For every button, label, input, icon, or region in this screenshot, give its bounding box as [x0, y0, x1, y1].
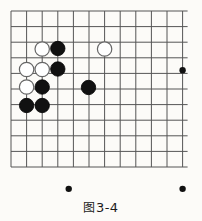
white-stone[interactable]	[35, 62, 49, 76]
black-stone[interactable]	[51, 41, 65, 55]
black-stone[interactable]	[35, 80, 49, 94]
caption-label: 图	[83, 201, 96, 215]
caption-number: 3-4	[96, 200, 119, 215]
white-stone[interactable]	[19, 80, 33, 94]
black-stone[interactable]	[35, 98, 49, 112]
black-stone[interactable]	[51, 62, 65, 76]
go-diagram-figure: 图3-4	[0, 0, 202, 221]
figure-caption: 图3-4	[0, 198, 202, 215]
stone-layer	[19, 41, 111, 112]
black-stone[interactable]	[19, 98, 33, 112]
star-bottom-left-icon	[66, 186, 72, 192]
white-stone[interactable]	[35, 42, 49, 56]
star-right-icon	[179, 67, 185, 73]
white-stone[interactable]	[19, 62, 33, 76]
go-board	[0, 0, 202, 200]
black-stone[interactable]	[81, 80, 95, 94]
star-bottom-right-icon	[179, 186, 185, 192]
white-stone[interactable]	[97, 42, 111, 56]
